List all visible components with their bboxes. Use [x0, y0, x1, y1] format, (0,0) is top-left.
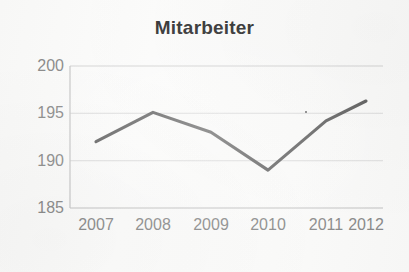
plot-area: 200 195 190 185 2007 2008 2009 2010 2011…: [0, 0, 409, 272]
chart-figure: Mitarbeiter 200 195 190 185: [0, 0, 409, 272]
x-axis-tick-labels: 2007 2008 2009 2010 2011 2012: [0, 0, 409, 272]
x-tick-2012: 2012: [338, 216, 394, 234]
x-tick-2007: 2007: [68, 216, 124, 234]
x-tick-2009: 2009: [183, 216, 239, 234]
x-tick-2010: 2010: [240, 216, 296, 234]
x-tick-2008: 2008: [125, 216, 181, 234]
